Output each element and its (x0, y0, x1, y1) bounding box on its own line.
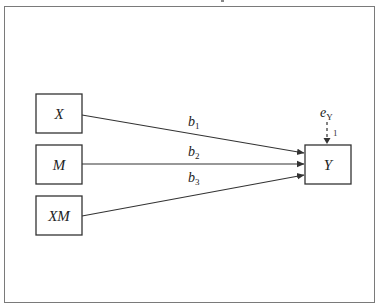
coef-b1: b1 (188, 114, 200, 131)
node-xm-label: XM (47, 208, 71, 224)
node-x: X (36, 94, 82, 133)
node-y: Y (305, 145, 351, 184)
node-xm: XM (36, 196, 82, 235)
error-term-label: eY (320, 105, 333, 122)
error-arrowhead-icon (324, 138, 331, 144)
node-x-label: X (53, 106, 64, 122)
node-m-label: M (52, 157, 67, 173)
coef-b2: b2 (188, 144, 200, 161)
error-fixed-loading: 1 (333, 128, 338, 138)
path-diagram: X M XM Y b1 b2 b3 eY 1 (0, 0, 379, 306)
coef-b3: b3 (188, 170, 200, 187)
node-m: M (36, 145, 82, 184)
